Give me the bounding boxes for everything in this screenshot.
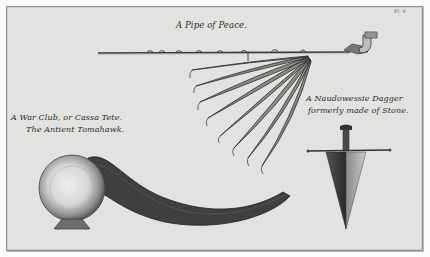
war-club-figure	[39, 155, 290, 229]
plate-number: Pl. 4	[394, 8, 406, 14]
caption-war-club-line1: A War Club, or Cassa Tete.	[11, 113, 122, 122]
caption-dagger-line2: formerly made of Stone.	[308, 106, 409, 115]
paper-sheet: Pl. 4 A Pipe of Peace. A War Club, or Ca…	[0, 0, 430, 257]
naudowessie-dagger-figure	[307, 125, 392, 230]
caption-war-club-line2: The Antient Tomahawk.	[26, 125, 124, 134]
caption-pipe-of-peace: A Pipe of Peace.	[176, 20, 247, 30]
caption-dagger-line1: A Naudowessie Dagger	[306, 94, 403, 103]
